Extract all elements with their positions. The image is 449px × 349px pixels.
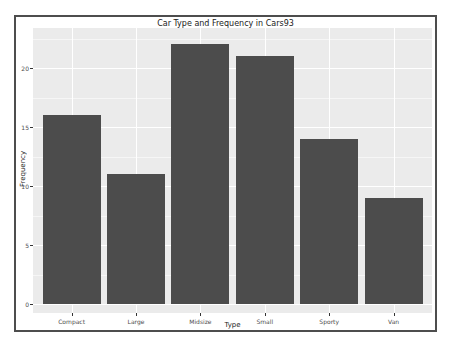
bar-midsize xyxy=(171,44,229,304)
plot-panel xyxy=(33,28,432,313)
chart-title: Car Type and Frequency in Cars93 xyxy=(16,19,435,28)
gridline-minor xyxy=(33,98,432,99)
bar-large xyxy=(107,174,165,304)
x-tick-mark xyxy=(394,313,395,316)
y-tick-label: 5 xyxy=(16,242,29,249)
x-axis-title: Type xyxy=(33,321,432,329)
x-tick-mark xyxy=(72,313,73,316)
x-tick-mark xyxy=(200,313,201,316)
bar-compact xyxy=(43,115,101,304)
gridline-minor xyxy=(33,39,432,40)
figure-page: Car Type and Frequency in Cars93 Frequen… xyxy=(0,0,449,349)
plot-frame-inner: Car Type and Frequency in Cars93 Frequen… xyxy=(16,17,435,330)
x-tick-mark xyxy=(265,313,266,316)
y-tick-label: 10 xyxy=(16,183,29,190)
y-tick-label: 20 xyxy=(16,65,29,72)
y-tick-mark xyxy=(30,127,33,128)
y-tick-mark xyxy=(30,304,33,305)
y-tick-mark xyxy=(30,186,33,187)
bar-small xyxy=(236,56,294,304)
x-tick-mark xyxy=(329,313,330,316)
bar-sporty xyxy=(300,139,358,304)
gridline-major xyxy=(33,68,432,69)
y-tick-mark xyxy=(30,68,33,69)
y-tick-label: 15 xyxy=(16,124,29,131)
bar-van xyxy=(365,198,423,304)
gridline-major xyxy=(33,304,432,305)
y-tick-mark xyxy=(30,245,33,246)
y-tick-label: 0 xyxy=(16,301,29,308)
x-tick-mark xyxy=(136,313,137,316)
plot-frame: Car Type and Frequency in Cars93 Frequen… xyxy=(14,15,437,332)
